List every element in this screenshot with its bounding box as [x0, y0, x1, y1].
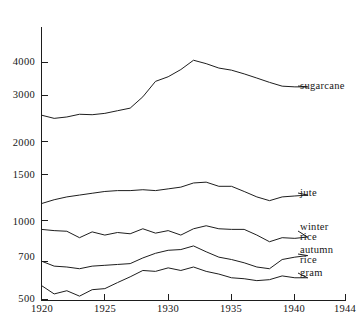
- series-line-winter-rice: [42, 226, 308, 242]
- y-tick-label-700: 700: [2, 251, 35, 262]
- y-tick-label-2000: 2000: [2, 137, 35, 148]
- series-lines: [42, 60, 308, 296]
- x-tick-marks: [42, 294, 346, 301]
- series-line-jute: [42, 182, 308, 203]
- series-line-gram: [42, 267, 308, 296]
- x-tick-label-1925: 1925: [88, 303, 122, 314]
- y-tick-label-3000: 3000: [2, 89, 35, 100]
- x-tick-label-1935: 1935: [214, 303, 248, 314]
- series-label-winter-rice-line2: rice: [300, 232, 317, 242]
- series-line-autumn-rice: [42, 246, 308, 269]
- y-tick-label-1500: 1500: [2, 169, 35, 180]
- x-tick-label-1920: 1920: [25, 303, 59, 314]
- series-label-jute: jute: [300, 188, 317, 198]
- x-tick-label-1940: 1940: [277, 303, 311, 314]
- series-label-autumn-rice-line2: rice: [300, 255, 317, 265]
- series-label-gram: gram: [300, 268, 323, 278]
- x-tick-label-1944: 1944: [328, 303, 361, 314]
- y-tick-label-1000: 1000: [2, 216, 35, 227]
- y-tick-label-4000: 4000: [2, 56, 35, 67]
- y-tick-marks: [42, 63, 48, 300]
- x-tick-label-1930: 1930: [151, 303, 185, 314]
- series-label-sugarcane: sugarcane: [300, 81, 345, 91]
- series-line-sugarcane: [42, 60, 308, 118]
